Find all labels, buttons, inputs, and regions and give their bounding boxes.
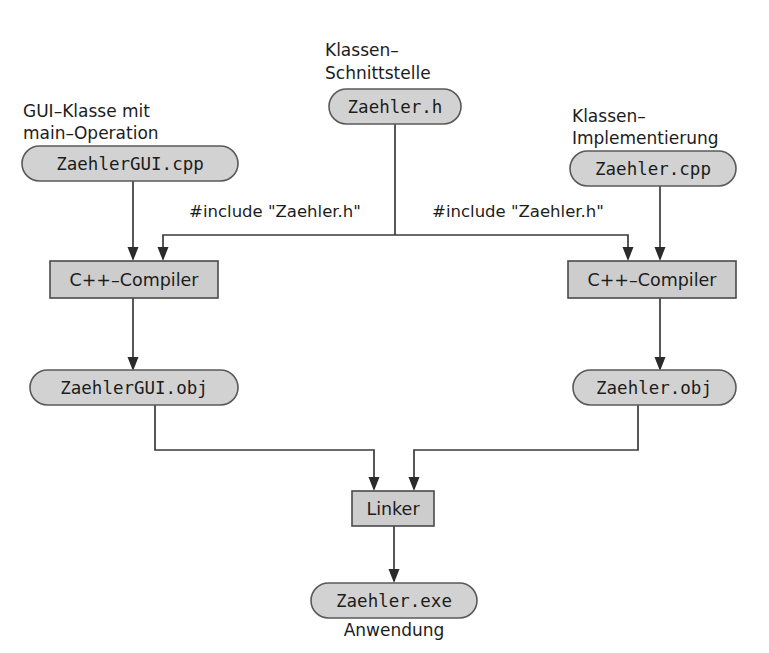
node-compiler-right-label: C++–Compiler — [587, 270, 717, 290]
edge-guicpp-to-left-compiler — [128, 181, 139, 261]
annotation-interface-line1: Klassen– — [325, 40, 399, 60]
annotation-implementation-line1: Klassen– — [572, 106, 646, 126]
edge-include-right-branch — [395, 235, 634, 261]
node-zaehler-exe[interactable]: Zaehler.exe — [311, 583, 477, 618]
edge-left-compiler-to-guiobj — [128, 298, 139, 371]
node-compiler-right[interactable]: C++–Compiler — [568, 261, 736, 298]
node-zaehler-cpp-label: Zaehler.cpp — [595, 159, 711, 179]
edge-obj-to-linker — [409, 405, 639, 491]
annotation-implementation-line2: Implementierung — [572, 128, 719, 148]
node-zaehlergui-obj[interactable]: ZaehlerGUI.obj — [30, 370, 238, 405]
annotation-application: Anwendung — [344, 620, 445, 640]
node-zaehler-h[interactable]: Zaehler.h — [329, 89, 461, 124]
edge-include-left-branch — [158, 235, 396, 261]
edge-zaehlercpp-to-right-compiler — [655, 186, 666, 261]
node-zaehlergui-obj-label: ZaehlerGUI.obj — [60, 378, 208, 398]
node-zaehler-cpp[interactable]: Zaehler.cpp — [570, 151, 736, 186]
node-zaehlergui-cpp-label: ZaehlerGUI.cpp — [56, 154, 204, 174]
node-zaehler-obj[interactable]: Zaehler.obj — [573, 370, 736, 405]
annotation-interface-line2: Schnittstelle — [325, 63, 431, 83]
edge-right-compiler-to-obj — [655, 298, 666, 371]
edge-label-include-left: #include "Zaehler.h" — [189, 202, 361, 221]
node-compiler-left-label: C++–Compiler — [69, 270, 199, 290]
annotation-gui-class-line1: GUI–Klasse mit — [23, 101, 150, 121]
node-zaehlergui-cpp[interactable]: ZaehlerGUI.cpp — [22, 146, 238, 181]
edge-label-include-right: #include "Zaehler.h" — [432, 202, 604, 221]
build-process-diagram: GUI–Klasse mit main–Operation Klassen– S… — [0, 0, 769, 653]
node-compiler-left[interactable]: C++–Compiler — [50, 261, 218, 298]
node-zaehler-exe-label: Zaehler.exe — [336, 591, 452, 611]
node-linker-label: Linker — [366, 499, 420, 519]
node-zaehler-obj-label: Zaehler.obj — [596, 378, 712, 398]
edge-guiobj-to-linker — [155, 405, 380, 491]
annotation-gui-class-line2: main–Operation — [23, 123, 159, 143]
edge-linker-to-exe — [389, 526, 400, 583]
diagram-canvas: GUI–Klasse mit main–Operation Klassen– S… — [0, 0, 769, 653]
node-zaehler-h-label: Zaehler.h — [348, 97, 443, 117]
node-linker[interactable]: Linker — [352, 491, 434, 526]
